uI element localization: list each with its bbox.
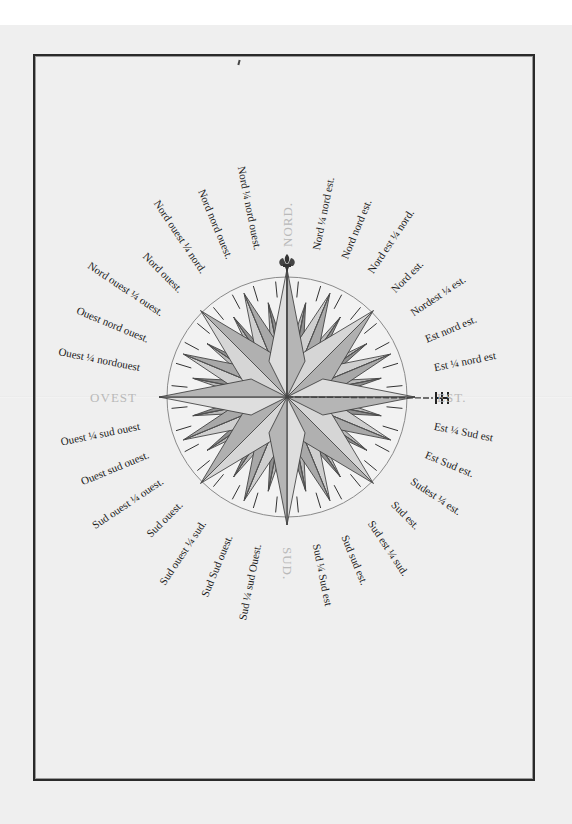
cardinal-label-south: SUD. [274,547,287,580]
compass-rose [0,0,572,824]
cardinal-label-west: OVEST [90,384,137,397]
cardinal-label-north: NORD. [287,202,300,247]
point-label-text: OVEST [90,391,137,404]
point-label-text: SUD. [281,547,294,580]
point-label-text: EST. [437,391,466,404]
cardinal-label-east: EST. [437,397,466,410]
point-label-text: NORD. [281,202,294,247]
